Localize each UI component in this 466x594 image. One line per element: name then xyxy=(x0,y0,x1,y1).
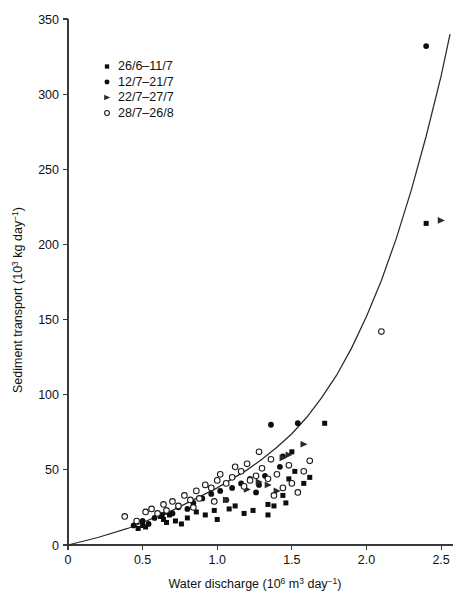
data-point-open-circle xyxy=(208,485,214,491)
data-point-filled-circle xyxy=(268,422,274,428)
legend-item-0: 26/6–11/7 xyxy=(105,59,173,73)
x-tick-label: 0.5 xyxy=(134,553,151,567)
data-point-open-circle xyxy=(176,503,182,509)
x-tick-label: 2.5 xyxy=(432,553,449,567)
x-tick-label: 1.5 xyxy=(283,553,300,567)
data-point-open-circle xyxy=(307,458,313,464)
data-point-filled-circle xyxy=(184,506,190,512)
data-point-filled-circle xyxy=(423,43,429,49)
data-point-open-circle xyxy=(105,111,110,116)
data-point-filled-square xyxy=(283,500,288,505)
data-point-filled-circle xyxy=(208,491,214,497)
data-point-filled-circle xyxy=(140,518,146,524)
data-point-filled-square xyxy=(179,521,184,526)
x-tick-label: 0 xyxy=(65,553,72,567)
data-point-open-circle xyxy=(122,514,128,520)
data-point-open-circle xyxy=(280,485,286,491)
data-point-filled-circle xyxy=(170,511,176,517)
data-point-open-circle xyxy=(164,508,170,514)
data-point-open-circle xyxy=(211,499,217,505)
data-point-filled-square xyxy=(322,421,327,426)
data-point-filled-square xyxy=(265,502,270,507)
data-point-open-circle xyxy=(253,473,259,479)
data-point-open-circle xyxy=(379,329,385,335)
data-point-open-circle xyxy=(214,478,220,484)
data-point-filled-circle xyxy=(146,521,152,527)
scatter-chart-figure: 05010015020025030035000.51.01.52.02.5 26… xyxy=(0,0,466,594)
legend-item-2: 22/7–27/7 xyxy=(104,90,173,104)
legend-item-3: 28/7–26/8 xyxy=(105,106,174,120)
data-point-filled-square xyxy=(215,517,220,522)
data-point-open-circle xyxy=(256,449,262,455)
data-point-filled-square xyxy=(164,520,169,525)
y-tick-label: 150 xyxy=(38,313,59,327)
legend: 26/6–11/712/7–21/722/7–27/728/7–26/8 xyxy=(104,59,173,120)
data-point-open-circle xyxy=(182,493,188,499)
data-point-open-circle xyxy=(238,469,244,475)
data-point-filled-square xyxy=(301,481,306,486)
x-tick-label: 2.0 xyxy=(358,553,375,567)
legend-item-label: 26/6–11/7 xyxy=(118,59,173,73)
data-point-filled-circle xyxy=(253,490,259,496)
data-point-open-circle xyxy=(197,496,203,502)
data-point-open-circle xyxy=(286,463,292,469)
y-tick-label: 0 xyxy=(52,539,59,553)
data-point-open-circle xyxy=(217,472,223,478)
data-point-filled-square xyxy=(173,518,178,523)
series-3 xyxy=(122,329,384,524)
data-point-filled-circle xyxy=(105,80,110,85)
data-point-open-circle xyxy=(247,478,253,484)
data-point-filled-square xyxy=(105,64,109,68)
data-point-open-circle xyxy=(301,469,307,475)
series-0 xyxy=(136,221,429,531)
data-point-filled-circle xyxy=(295,420,301,426)
data-point-open-circle xyxy=(161,502,167,508)
data-point-open-circle xyxy=(232,464,238,470)
y-tick-label: 100 xyxy=(38,388,59,402)
data-point-right-triangle xyxy=(265,482,272,489)
data-point-filled-square xyxy=(289,449,294,454)
x-tick-label: 1.0 xyxy=(209,553,226,567)
data-point-right-triangle xyxy=(438,217,445,224)
data-point-open-circle xyxy=(289,481,295,487)
legend-item-label: 12/7–21/7 xyxy=(118,75,174,89)
legend-item-label: 22/7–27/7 xyxy=(118,90,174,104)
data-point-filled-square xyxy=(242,511,247,516)
data-point-filled-square xyxy=(203,512,208,517)
svg-text:Water discharge (106 m3 day−1): Water discharge (106 m3 day−1) xyxy=(169,576,342,591)
data-point-open-circle xyxy=(143,509,149,515)
data-point-filled-square xyxy=(251,508,256,513)
legend-item-1: 12/7–21/7 xyxy=(105,75,174,89)
data-point-filled-square xyxy=(212,508,217,513)
y-tick-label: 350 xyxy=(38,13,59,27)
data-point-filled-square xyxy=(292,469,297,474)
data-point-filled-square xyxy=(424,221,429,226)
data-point-open-circle xyxy=(229,475,235,481)
data-point-open-circle xyxy=(202,482,208,488)
data-point-open-circle xyxy=(268,457,274,463)
svg-text:Sediment transport (103 kg day: Sediment transport (103 kg day−1) xyxy=(10,207,25,393)
data-point-filled-square xyxy=(307,475,312,480)
data-point-filled-square xyxy=(280,493,285,498)
y-tick-label: 50 xyxy=(45,463,59,477)
data-point-open-circle xyxy=(134,518,140,524)
data-point-open-circle xyxy=(149,506,155,512)
data-point-open-circle xyxy=(295,490,301,496)
data-point-open-circle xyxy=(223,481,229,487)
legend-item-label: 28/7–26/8 xyxy=(118,106,174,120)
data-point-open-circle xyxy=(259,466,265,472)
data-point-filled-square xyxy=(227,506,232,511)
data-point-open-circle xyxy=(155,511,161,517)
data-point-open-circle xyxy=(271,493,277,499)
data-point-open-circle xyxy=(244,461,250,467)
y-tick-label: 300 xyxy=(38,88,59,102)
data-point-filled-circle xyxy=(217,488,223,494)
data-point-open-circle xyxy=(194,488,200,494)
y-tick-label: 250 xyxy=(38,163,59,177)
data-point-open-circle xyxy=(170,499,176,505)
data-point-open-circle xyxy=(188,497,194,503)
x-axis-title: Water discharge (106 m3 day−1) xyxy=(169,576,342,591)
data-point-filled-circle xyxy=(277,464,283,470)
data-point-open-circle xyxy=(274,472,280,478)
y-tick-label: 200 xyxy=(38,238,59,252)
